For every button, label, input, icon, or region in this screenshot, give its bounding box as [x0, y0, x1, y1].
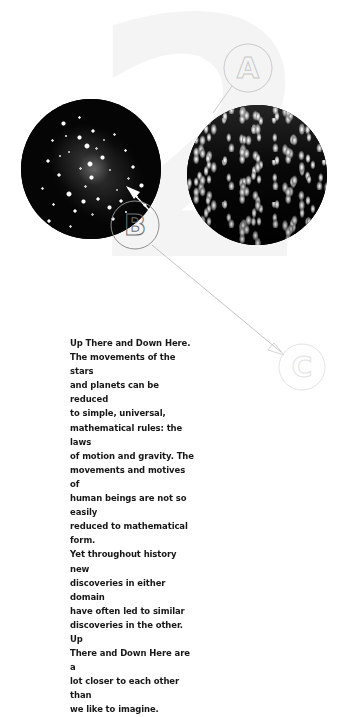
figure-crowd-photo — [187, 105, 327, 245]
crowd-lighting — [187, 105, 327, 245]
caption-body-text: Up There and Down Here. The movements of… — [70, 336, 196, 717]
galaxy-stars — [21, 99, 161, 239]
marker-circle-c[interactable] — [279, 344, 325, 390]
marker-label-c: C — [292, 351, 313, 384]
figure-galaxy-photo — [21, 99, 161, 239]
arrowhead-c — [268, 343, 284, 355]
